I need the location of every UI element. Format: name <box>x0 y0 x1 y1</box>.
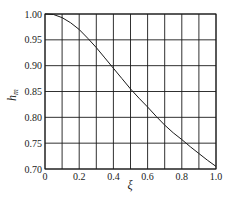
x-tick-label: 0.6 <box>141 171 154 182</box>
y-tick-label: 0.70 <box>25 164 43 175</box>
y-tick-label: 0.85 <box>25 86 43 97</box>
y-axis-label: hm <box>5 89 20 101</box>
y-tick-labels: 0.700.750.800.850.900.951.00 <box>25 9 43 175</box>
x-tick-label: 0.8 <box>176 171 189 182</box>
x-tick-label: 1.0 <box>210 171 223 182</box>
y-tick-label: 1.00 <box>25 9 43 20</box>
line-chart: 0.700.750.800.850.900.951.00 00.20.40.60… <box>0 0 229 203</box>
x-axis-label: ξ <box>127 178 133 192</box>
x-tick-label: 0.4 <box>107 171 120 182</box>
y-tick-label: 0.75 <box>25 138 43 149</box>
x-tick-label: 0 <box>43 171 48 182</box>
y-tick-label: 0.95 <box>25 34 43 45</box>
grid-lines <box>45 14 216 169</box>
y-tick-label: 0.80 <box>25 112 43 123</box>
y-tick-label: 0.90 <box>25 60 43 71</box>
x-tick-label: 0.2 <box>73 171 86 182</box>
svg-text:hm: hm <box>5 89 20 101</box>
